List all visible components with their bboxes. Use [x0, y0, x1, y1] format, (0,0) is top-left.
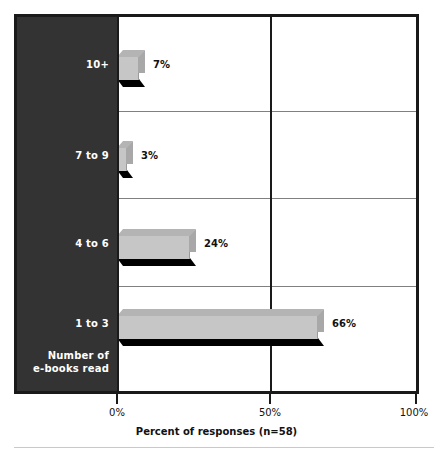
bar-face: [117, 315, 318, 339]
category-label-10plus-top: 10+: [17, 59, 109, 70]
footer-divider: [14, 447, 434, 448]
bar-value-4to6: 24%: [204, 238, 228, 249]
x-tick-100: [415, 394, 417, 404]
bar-face: [117, 56, 139, 80]
bar-7to9: [117, 141, 133, 171]
bar-face: [117, 235, 190, 259]
y-axis-title-line1: Number of: [17, 350, 109, 361]
x-tick-label-0: 0%: [109, 407, 125, 418]
x-tick-label-100: 100%: [400, 407, 429, 418]
chart-figure: 10+ 7% 7 to 9 3%: [0, 0, 446, 452]
plot-frame: 10+ 7% 7 to 9 3%: [14, 14, 419, 394]
y-axis-title-line2: e-books read: [17, 363, 109, 374]
category-label-7to9-top: 7 to 9: [17, 150, 109, 161]
x-tick-0: [116, 394, 118, 404]
bar-shadow: [117, 338, 324, 346]
plot-area: 10+ 7% 7 to 9 3%: [17, 17, 416, 391]
bar-4to6: [117, 229, 196, 259]
bar-value-10plus: 7%: [153, 59, 170, 70]
category-axis-panel: [17, 17, 117, 391]
bar-top: [117, 229, 196, 236]
bar-value-7to9: 3%: [141, 150, 158, 161]
category-label-4to6-top: 4 to 6: [17, 238, 109, 249]
bar-shadow: [117, 258, 196, 266]
axis-baseline-zero: [117, 17, 119, 391]
bar-10plus: [117, 50, 145, 80]
x-axis-title: Percent of responses (n=58): [14, 426, 419, 437]
bar-shadow: [117, 170, 133, 178]
bar-shadow: [117, 79, 145, 87]
bar-value-1to3: 66%: [332, 318, 356, 329]
x-tick-label-50: 50%: [259, 407, 281, 418]
bar-1to3: [117, 309, 324, 339]
category-label-1to3-top: 1 to 3: [17, 318, 109, 329]
bar-top: [117, 309, 324, 316]
x-tick-50: [269, 394, 271, 404]
x-axis: 0% 50% 100% Percent of responses (n=58): [14, 394, 419, 452]
